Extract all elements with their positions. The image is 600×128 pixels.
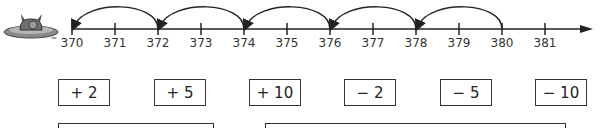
operation-choice-box[interactable]: + 10 (249, 79, 301, 106)
operation-choice-box[interactable]: − 5 (440, 79, 492, 106)
operation-choice-box[interactable]: − 2 (344, 79, 396, 106)
tick-label: 370 (57, 36, 87, 50)
tick-label: 377 (358, 36, 388, 50)
tick-label: 371 (100, 36, 130, 50)
operation-choice-box[interactable]: − 10 (535, 79, 587, 106)
jump-arrow (160, 7, 244, 29)
jump-arrow (246, 7, 330, 29)
operation-choice-box[interactable]: + 5 (154, 79, 206, 106)
tick-label: 378 (401, 36, 431, 50)
jump-arrow (332, 7, 416, 29)
number-line (0, 0, 600, 60)
axis-arrow-icon (580, 25, 593, 33)
tick-label: 372 (143, 36, 173, 50)
jump-arrow (418, 7, 502, 29)
tick-label: 380 (487, 36, 517, 50)
tick-label: 373 (186, 36, 216, 50)
tick-label: 375 (272, 36, 302, 50)
tick-label: 381 (530, 36, 560, 50)
tick-label: 374 (229, 36, 259, 50)
answer-box-left[interactable] (58, 123, 214, 128)
operation-choice-box[interactable]: + 2 (58, 79, 110, 106)
answer-box-right[interactable] (265, 123, 566, 128)
jump-arrow (74, 7, 158, 29)
tick-label: 379 (444, 36, 474, 50)
tick-label: 376 (315, 36, 345, 50)
